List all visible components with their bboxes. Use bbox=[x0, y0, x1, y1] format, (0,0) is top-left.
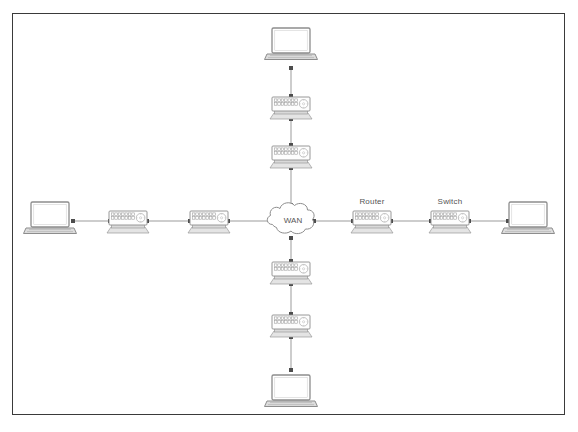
switch-bottom-inner[interactable] bbox=[270, 262, 312, 284]
laptop-top[interactable] bbox=[265, 28, 318, 60]
wan-label: WAN bbox=[273, 216, 313, 225]
link-switch-bottom-outer-to-laptop-endpoint bbox=[289, 368, 293, 372]
switch-label: Switch bbox=[430, 197, 470, 206]
laptop-right[interactable] bbox=[502, 202, 555, 234]
switch-top-outer[interactable] bbox=[270, 97, 312, 119]
switch-top-inner[interactable] bbox=[270, 146, 312, 168]
link-laptop-top-to-switch-endpoint bbox=[289, 66, 293, 70]
link-wan-to-switch-bottom-inner-endpoint bbox=[289, 236, 293, 240]
switch-bottom-outer[interactable] bbox=[270, 315, 312, 337]
laptop-bottom[interactable] bbox=[265, 375, 318, 407]
switch-left-outer[interactable] bbox=[107, 211, 149, 233]
laptop-left-glyph bbox=[24, 202, 77, 234]
switch-left-inner[interactable] bbox=[188, 211, 230, 233]
diagram-canvas: WAN Router Switch bbox=[0, 0, 578, 432]
link-laptop-left-to-switch-endpoint bbox=[71, 219, 75, 223]
switch-right-outer[interactable] bbox=[429, 211, 471, 233]
router-label: Router bbox=[352, 197, 392, 206]
laptop-bottom-glyph bbox=[265, 375, 318, 407]
laptop-right-glyph bbox=[502, 202, 555, 234]
laptop-left[interactable] bbox=[24, 202, 77, 234]
router-right-inner[interactable] bbox=[351, 211, 393, 233]
laptop-top-glyph bbox=[265, 28, 318, 60]
